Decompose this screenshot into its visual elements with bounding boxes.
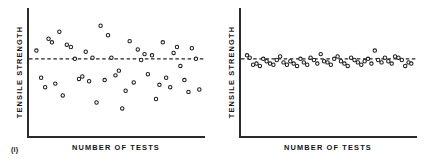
data-point-group — [35, 24, 201, 110]
data-point — [114, 74, 117, 77]
data-point — [110, 56, 113, 59]
scatter-comparison-figure: NUMBER OF TESTS TENSILE STRENGTH (i) NUM… — [0, 0, 424, 161]
data-point — [346, 64, 349, 67]
axis-lines — [240, 8, 417, 137]
data-point — [380, 61, 383, 64]
data-point — [309, 56, 312, 59]
data-point — [376, 58, 379, 61]
data-point — [339, 60, 342, 63]
data-point — [312, 58, 315, 61]
data-point — [326, 61, 329, 64]
data-point — [58, 30, 61, 33]
data-point — [106, 34, 109, 37]
data-point — [43, 85, 46, 88]
data-point — [99, 24, 102, 27]
y-axis-label: TENSILE STRENGTH — [15, 26, 24, 118]
data-point — [363, 60, 366, 63]
axis-lines — [28, 8, 205, 137]
data-point — [50, 41, 53, 44]
data-point — [353, 58, 356, 61]
data-point — [139, 58, 142, 61]
data-point — [198, 88, 201, 91]
data-point — [289, 60, 292, 63]
data-point — [175, 45, 178, 48]
data-point — [387, 60, 390, 63]
data-point — [91, 56, 94, 59]
data-point — [39, 76, 42, 79]
data-point — [410, 62, 413, 65]
data-point — [285, 63, 288, 66]
data-point — [343, 62, 346, 65]
data-point — [124, 89, 127, 92]
data-point — [47, 37, 50, 40]
data-point — [336, 55, 339, 58]
data-point — [69, 45, 72, 48]
data-point — [255, 62, 258, 65]
data-point — [77, 77, 80, 80]
data-point — [161, 41, 164, 44]
data-point — [84, 50, 87, 53]
data-point — [302, 61, 305, 64]
data-point — [65, 43, 68, 46]
data-point — [187, 90, 190, 93]
data-point — [35, 49, 38, 52]
data-point — [194, 57, 197, 60]
data-point-group — [245, 49, 413, 68]
data-point — [360, 63, 363, 66]
data-point — [150, 54, 153, 57]
data-point — [366, 57, 369, 60]
data-point — [272, 63, 275, 66]
data-point — [81, 75, 84, 78]
high-scatter-panel: NUMBER OF TESTS TENSILE STRENGTH (i) — [0, 0, 212, 161]
data-point — [158, 83, 161, 86]
data-point — [275, 58, 278, 61]
data-point — [190, 47, 193, 50]
data-point — [128, 39, 131, 42]
data-point — [400, 58, 403, 61]
data-point — [316, 62, 319, 65]
data-point — [262, 57, 265, 60]
data-point — [132, 81, 135, 84]
low-scatter-panel: NUMBER OF TESTS TENSILE STRENGTH (ii) — [212, 0, 424, 161]
data-point — [87, 80, 90, 83]
data-point — [121, 107, 124, 110]
data-point — [146, 72, 149, 75]
data-point — [373, 49, 376, 52]
x-axis-label: NUMBER OF TESTS — [72, 143, 160, 152]
data-point — [299, 57, 302, 60]
data-point — [258, 64, 261, 67]
data-point — [103, 78, 106, 81]
data-point — [248, 56, 251, 59]
data-point — [370, 62, 373, 65]
data-point — [295, 64, 298, 67]
data-point — [154, 97, 157, 100]
y-axis-label: TENSILE STRENGTH — [227, 26, 236, 118]
data-point — [61, 94, 64, 97]
data-point — [282, 61, 285, 64]
data-point — [349, 56, 352, 59]
data-point — [404, 64, 407, 67]
data-point — [305, 63, 308, 66]
x-axis-label: NUMBER OF TESTS — [284, 143, 372, 152]
data-point — [390, 62, 393, 65]
data-point — [54, 82, 57, 85]
low-scatter-plot: NUMBER OF TESTS TENSILE STRENGTH — [212, 0, 424, 161]
data-point — [169, 85, 172, 88]
data-point — [172, 51, 175, 54]
high-scatter-plot: NUMBER OF TESTS TENSILE STRENGTH — [0, 0, 212, 161]
data-point — [117, 69, 120, 72]
data-point — [265, 60, 268, 63]
data-point — [292, 62, 295, 65]
data-point — [383, 56, 386, 59]
data-point — [319, 52, 322, 55]
data-point — [329, 63, 332, 66]
data-point — [95, 101, 98, 104]
data-point — [179, 64, 182, 67]
data-point — [333, 57, 336, 60]
data-point — [136, 48, 139, 51]
data-point — [278, 55, 281, 58]
data-point — [164, 76, 167, 79]
data-point — [397, 56, 400, 59]
data-point — [356, 61, 359, 64]
data-point — [183, 78, 186, 81]
